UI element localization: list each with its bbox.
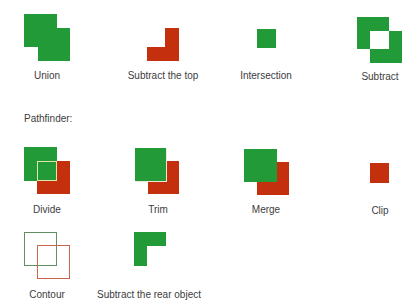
subtract-label: Subtract (361, 71, 398, 82)
subtract-the-top-label: Subtract the top (128, 70, 199, 81)
clip-label: Clip (371, 205, 388, 216)
trim-label: Trim (148, 204, 168, 215)
pathfinder-heading: Pathfinder: (24, 113, 72, 124)
intersection-label: Intersection (240, 70, 292, 81)
union-label: Union (34, 70, 60, 81)
merge-label: Merge (252, 204, 280, 215)
divide-label: Divide (33, 204, 61, 215)
subtract-the-rear-object-label: Subtract the rear object (97, 289, 201, 300)
contour-label: Contour (29, 289, 65, 300)
